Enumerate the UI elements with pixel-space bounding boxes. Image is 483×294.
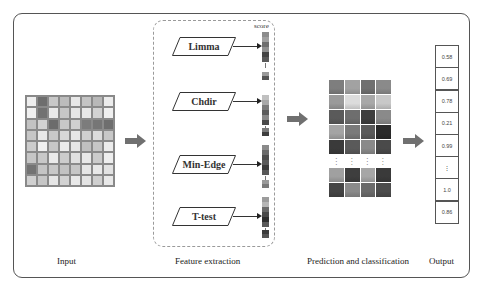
matrix-cell <box>48 164 59 175</box>
heatmap-cell <box>376 183 391 197</box>
matrix-cell <box>81 96 92 107</box>
heatmap-cell <box>329 80 344 94</box>
matrix-cell <box>48 96 59 107</box>
matrix-cell <box>103 107 114 118</box>
method-t-test: T-test <box>172 207 236 226</box>
matrix-cell <box>26 141 37 152</box>
heatmap-cell <box>329 140 344 154</box>
score-bar-tail <box>262 128 269 136</box>
heatmap-cell <box>345 140 360 154</box>
matrix-cell <box>92 164 103 175</box>
matrix-cell <box>37 119 48 130</box>
heatmap-cell <box>345 110 360 124</box>
matrix-cell <box>48 107 59 118</box>
matrix-cell <box>48 175 59 186</box>
matrix-cell <box>70 107 81 118</box>
matrix-cell <box>92 130 103 141</box>
arrow-to-score-icon <box>233 216 259 217</box>
heatmap-cell <box>376 125 391 139</box>
vertical-ellipsis-icon: ··· <box>382 157 385 166</box>
matrix-cell <box>92 107 103 118</box>
output-value: ⋮ <box>435 156 459 179</box>
matrix-cell <box>59 152 70 163</box>
matrix-cell <box>59 175 70 186</box>
heatmap-cell <box>329 125 344 139</box>
heatmap-cell <box>361 168 376 182</box>
matrix-cell <box>26 164 37 175</box>
method-label: Limma <box>188 41 219 52</box>
output-value: 0.99 <box>435 134 459 157</box>
heatmap-cell <box>345 125 360 139</box>
score-bar <box>262 145 269 175</box>
matrix-cell <box>37 175 48 186</box>
output-value: 0.86 <box>435 201 459 224</box>
vertical-ellipsis-icon: ··· <box>335 157 338 166</box>
prediction-heatmap-upper <box>329 80 391 154</box>
prediction-heatmap-lower <box>329 168 391 197</box>
arrow-to-score-icon <box>233 101 259 102</box>
matrix-cell <box>37 141 48 152</box>
heatmap-cell <box>361 125 376 139</box>
matrix-cell <box>26 152 37 163</box>
matrix-cell <box>59 96 70 107</box>
matrix-cell <box>37 152 48 163</box>
label-input: Input <box>57 256 76 266</box>
right-arrow-icon <box>403 134 425 148</box>
matrix-cell <box>26 130 37 141</box>
heatmap-cell <box>376 168 391 182</box>
score-bar-tail <box>262 230 269 238</box>
matrix-cell <box>37 107 48 118</box>
matrix-cell <box>48 141 59 152</box>
heatmap-cell <box>376 80 391 94</box>
matrix-cell <box>103 175 114 186</box>
matrix-cell <box>81 164 92 175</box>
matrix-cell <box>81 175 92 186</box>
matrix-cell <box>48 130 59 141</box>
matrix-cell <box>48 152 59 163</box>
matrix-cell <box>103 130 114 141</box>
output-column: 0.580.690.780.210.99⋮1.00.86 <box>435 46 459 224</box>
matrix-cell <box>92 175 103 186</box>
matrix-cell <box>70 164 81 175</box>
heatmap-cell <box>376 95 391 109</box>
vertical-ellipsis-icon: ··· <box>351 157 354 166</box>
heatmap-cell <box>345 183 360 197</box>
matrix-cell <box>59 141 70 152</box>
input-matrix <box>25 95 115 187</box>
right-arrow-icon <box>125 134 147 148</box>
matrix-cell <box>92 96 103 107</box>
method-limma: Limma <box>172 37 236 56</box>
right-arrow-icon <box>287 112 309 126</box>
score-bar <box>262 197 269 227</box>
heatmap-cell <box>345 80 360 94</box>
matrix-cell <box>92 152 103 163</box>
matrix-cell <box>103 152 114 163</box>
matrix-cell <box>37 130 48 141</box>
heatmap-cell <box>361 183 376 197</box>
matrix-cell <box>70 141 81 152</box>
label-feature-extraction: Feature extraction <box>175 256 240 266</box>
heatmap-cell <box>329 183 344 197</box>
arrow-to-score-icon <box>233 164 259 165</box>
score-header: score <box>254 22 269 30</box>
matrix-cell <box>37 96 48 107</box>
method-min-edge: Min-Edge <box>172 155 236 174</box>
score-bar <box>262 32 269 62</box>
matrix-cell <box>81 141 92 152</box>
matrix-cell <box>70 96 81 107</box>
matrix-cell <box>92 141 103 152</box>
matrix-cell <box>70 130 81 141</box>
ellipsis-tick <box>265 63 266 68</box>
output-value: 1.0 <box>435 178 459 201</box>
label-prediction-classification: Prediction and classification <box>307 256 409 266</box>
matrix-cell <box>92 119 103 130</box>
output-value: 0.58 <box>435 45 459 68</box>
method-label: T-test <box>192 211 216 222</box>
arrow-to-score-icon <box>233 46 259 47</box>
output-value: 0.21 <box>435 112 459 135</box>
matrix-cell <box>81 107 92 118</box>
heatmap-cell <box>361 140 376 154</box>
matrix-cell <box>48 119 59 130</box>
heatmap-cell <box>376 110 391 124</box>
matrix-cell <box>103 96 114 107</box>
